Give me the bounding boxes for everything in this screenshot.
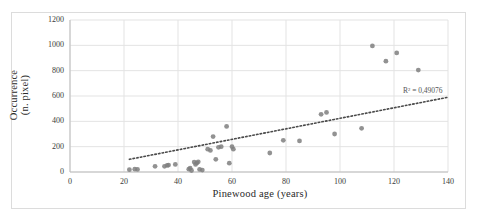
gridlines: [70, 20, 448, 172]
data-point: [135, 167, 140, 172]
data-point: [213, 157, 218, 162]
x-tick-label: 60: [219, 177, 245, 186]
x-axis-title: Pinewood age (years): [150, 188, 370, 199]
data-point: [267, 151, 272, 156]
data-point: [166, 163, 171, 168]
y-tick-label: 200: [38, 142, 64, 151]
data-point: [127, 167, 132, 172]
x-tick-label: 140: [435, 177, 461, 186]
data-point: [231, 147, 236, 152]
data-point: [219, 144, 224, 149]
x-tick-label: 40: [165, 177, 191, 186]
y-axis-title-line1: Occurrence: [8, 40, 19, 150]
r-squared-annotation: R² = 0,49076: [403, 86, 443, 95]
y-tick-label: 600: [38, 91, 64, 100]
data-point: [153, 164, 158, 169]
data-point: [319, 112, 324, 117]
data-point: [384, 59, 389, 64]
x-tick-label: 20: [111, 177, 137, 186]
data-point: [211, 134, 216, 139]
y-tick-label: 1200: [38, 15, 64, 24]
data-point: [189, 168, 194, 173]
data-point: [196, 159, 201, 164]
data-point: [173, 162, 178, 167]
y-tick-label: 800: [38, 66, 64, 75]
y-axis-title-line2: (n. pixel): [19, 40, 30, 150]
data-point: [332, 132, 337, 137]
y-axis-title: Occurrence (n. pixel): [8, 40, 30, 150]
data-point: [227, 161, 232, 166]
y-tick-label: 0: [38, 167, 64, 176]
data-point: [416, 68, 421, 73]
trendline: [129, 97, 448, 159]
x-tick-label: 0: [57, 177, 83, 186]
x-tick-label: 80: [273, 177, 299, 186]
data-point: [281, 138, 286, 143]
data-point: [359, 126, 364, 131]
data-point: [200, 168, 205, 173]
data-point: [370, 44, 375, 49]
data-point: [297, 139, 302, 144]
x-tick-label: 120: [381, 177, 407, 186]
data-point: [324, 110, 329, 115]
y-tick-label: 400: [38, 116, 64, 125]
data-points: [127, 44, 421, 173]
trendline-path: [129, 97, 448, 159]
y-tick-label: 1000: [38, 40, 64, 49]
data-point: [208, 148, 213, 153]
data-point: [224, 124, 229, 129]
x-tick-label: 100: [327, 177, 353, 186]
data-point: [394, 51, 399, 56]
